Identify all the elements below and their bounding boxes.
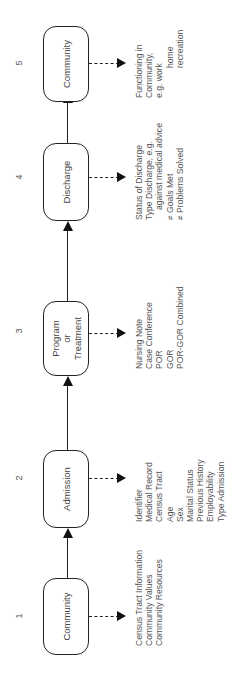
stage-5-label: Community xyxy=(61,40,72,88)
flow-diagram: 1 Community Census Tract Information Com… xyxy=(0,0,232,698)
stage-2-label: Admission xyxy=(61,467,72,511)
detail-item: Census Tract Information xyxy=(134,550,144,646)
stage-1-details: Census Tract Information Community Value… xyxy=(134,550,165,646)
detail-item: GOR xyxy=(165,286,175,369)
detail-item: Community Resources xyxy=(154,550,164,646)
detail-item: POR-GOR Combined xyxy=(175,286,185,369)
stage-3-number: 3 xyxy=(14,321,24,341)
detail-item: Age xyxy=(165,459,175,522)
arrow-1-2-icon xyxy=(63,528,73,538)
detail-item: Previous History xyxy=(195,459,205,522)
detail-item: against medical advice xyxy=(154,123,164,220)
stage-1-community-box: Community xyxy=(43,578,89,655)
detail-item: e.g. work xyxy=(154,30,164,98)
stage-4-label: Discharge xyxy=(61,161,72,204)
stage-2-dashed-connector xyxy=(89,478,119,479)
detail-item: Nursing Note xyxy=(134,286,144,369)
detail-item: Marital Status xyxy=(185,459,195,522)
detail-item: Case Conference xyxy=(144,286,154,369)
detail-item: POR xyxy=(154,286,164,369)
detail-item: Identifier xyxy=(134,459,144,522)
detail-item: Type Admission xyxy=(216,459,226,522)
stage-3-program-box: Program or Treatment xyxy=(43,301,89,376)
detail-item: Census Tract xyxy=(154,459,164,522)
stage-4-dashed-connector xyxy=(89,177,119,178)
stage-3-dashed-connector xyxy=(89,333,119,334)
stage-4-discharge-box: Discharge xyxy=(43,143,89,221)
detail-item: ≠ Goals Met xyxy=(165,123,175,220)
stage-5-dashed-connector xyxy=(89,63,119,64)
detail-item: Sex xyxy=(175,459,185,522)
stage-2-number: 2 xyxy=(14,468,24,488)
stage-3-label-line3: Treatment xyxy=(72,317,83,360)
detail-item: Type Discharge, e.g. xyxy=(144,123,154,220)
detail-item: Community Values xyxy=(144,550,154,646)
detail-item: home xyxy=(165,30,175,98)
stage-2-arrowhead-icon xyxy=(117,473,126,483)
connector-3-4 xyxy=(67,223,68,301)
stage-1-number: 1 xyxy=(14,606,24,626)
detail-item: recreation xyxy=(175,30,185,98)
arrow-3-4-icon xyxy=(63,221,73,231)
stage-3-label-line2: or xyxy=(61,317,72,360)
detail-item: Status of Discharge xyxy=(134,123,144,220)
stage-4-details: Status of Discharge Type Discharge, e.g.… xyxy=(134,123,185,220)
detail-item: ≠ Problems Solved xyxy=(175,123,185,220)
stage-1-label: Community xyxy=(61,592,72,640)
stage-2-admission-box: Admission xyxy=(43,450,89,528)
stage-4-number: 4 xyxy=(14,167,24,187)
stage-3-details: Nursing Note Case Conference POR GOR POR… xyxy=(134,286,185,369)
stage-5-arrowhead-icon xyxy=(117,58,126,68)
stage-4-arrowhead-icon xyxy=(117,172,126,182)
stage-5-number: 5 xyxy=(14,53,24,73)
stage-1-arrowhead-icon xyxy=(117,611,126,621)
detail-item: Community, xyxy=(144,30,154,98)
connector-2-3 xyxy=(67,378,68,450)
arrow-2-3-icon xyxy=(63,376,73,386)
stage-5-details: Functioning in Community, e.g. work home… xyxy=(134,30,185,98)
stage-2-details: Identifier Medical Record Census Tract A… xyxy=(134,459,226,522)
stage-3-arrowhead-icon xyxy=(117,328,126,338)
detail-item: Functioning in xyxy=(134,30,144,98)
detail-item: Medical Record xyxy=(144,459,154,522)
stage-1-dashed-connector xyxy=(89,616,119,617)
stage-3-label-line1: Program xyxy=(50,317,61,360)
detail-item: Employability xyxy=(205,459,215,522)
stage-5-community-box: Community xyxy=(43,26,89,102)
